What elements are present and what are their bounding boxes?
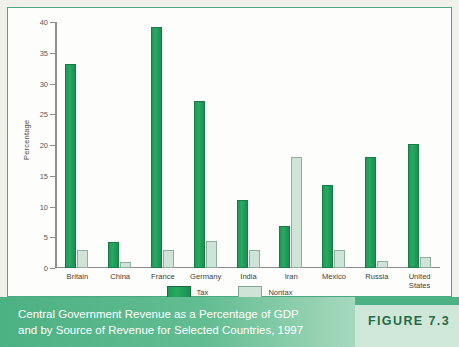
bar-group: China — [108, 22, 132, 268]
y-tick-mark — [50, 237, 55, 238]
bar-group: UnitedStates — [408, 22, 432, 268]
bar-nontax — [420, 257, 431, 268]
bar-tax — [65, 64, 76, 268]
bar-nontax — [77, 250, 88, 268]
bar-group: Germany — [194, 22, 218, 268]
figure-badge: FIGURE 7.3 — [355, 297, 459, 347]
bar-nontax — [120, 262, 131, 268]
bar-tax — [279, 226, 290, 268]
y-tick-mark — [50, 176, 55, 177]
bar-group: Britain — [65, 22, 89, 268]
y-tick-label: 0 — [44, 264, 48, 273]
y-tick-mark — [50, 84, 55, 85]
bar-nontax — [291, 157, 302, 268]
chart-panel: Percentage 0510152025303540 BritainChina… — [7, 7, 452, 297]
figure-container: Percentage 0510152025303540 BritainChina… — [0, 0, 459, 347]
bar-group: France — [151, 22, 175, 268]
y-axis-title: Percentage — [22, 120, 31, 160]
bar-group: India — [237, 22, 261, 268]
y-tick-label: 20 — [40, 141, 48, 150]
y-tick-label: 25 — [40, 110, 48, 119]
figure-caption: Central Government Revenue as a Percenta… — [18, 306, 358, 338]
bar-group: Iran — [279, 22, 303, 268]
y-tick-mark — [50, 114, 55, 115]
bar-tax — [108, 242, 119, 268]
legend-label-tax: Tax — [197, 288, 209, 297]
caption-band: Central Government Revenue as a Percenta… — [0, 297, 459, 347]
y-tick-mark — [50, 145, 55, 146]
y-tick-label: 15 — [40, 171, 48, 180]
y-tick-label: 5 — [44, 233, 48, 242]
y-tick-label: 10 — [40, 202, 48, 211]
bar-tax — [151, 27, 162, 268]
bar-tax — [408, 144, 419, 268]
bar-tax — [365, 157, 376, 268]
plot-area: 0510152025303540 BritainChinaFranceGerma… — [55, 22, 440, 268]
bar-nontax — [249, 250, 260, 268]
y-tick-label: 35 — [40, 48, 48, 57]
figure-number-label: FIGURE 7.3 — [368, 314, 450, 328]
y-tick-label: 30 — [40, 79, 48, 88]
figure-badge-strip — [355, 297, 459, 305]
y-axis-line — [55, 22, 57, 268]
caption-line-1: Central Government Revenue as a Percenta… — [18, 306, 358, 322]
caption-line-2: and by Source of Revenue for Selected Co… — [18, 322, 358, 338]
y-tick-mark — [50, 207, 55, 208]
y-tick-label: 40 — [40, 18, 48, 27]
y-tick-mark — [50, 53, 55, 54]
bar-tax — [237, 200, 248, 268]
y-tick-mark — [50, 22, 55, 23]
y-tick-mark — [50, 268, 55, 269]
bar-nontax — [206, 241, 217, 268]
legend-label-nontax: Nontax — [268, 288, 292, 297]
bar-tax — [194, 101, 205, 268]
bar-nontax — [163, 250, 174, 268]
bar-nontax — [334, 250, 345, 268]
bar-group: Russia — [365, 22, 389, 268]
bar-tax — [322, 185, 333, 268]
bar-group: Mexico — [322, 22, 346, 268]
bar-nontax — [377, 261, 388, 268]
